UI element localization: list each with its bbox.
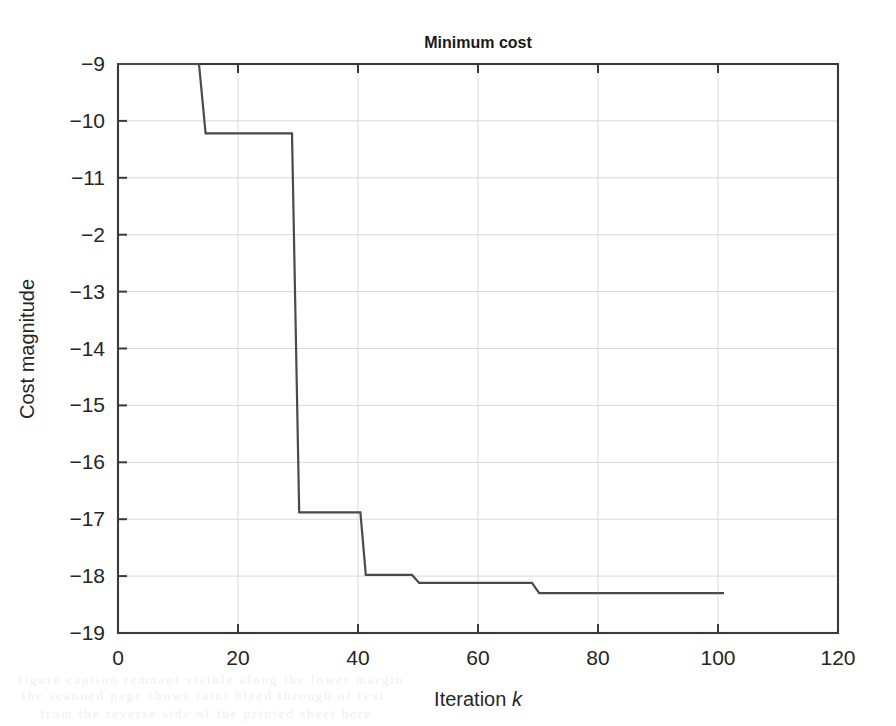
y-tick-label: −11 bbox=[71, 166, 105, 189]
y-tick-labels: −9−10−11−2−13−14−15−16−17−18−19 bbox=[69, 52, 105, 644]
x-tick-labels: 020406080100120 bbox=[112, 646, 855, 669]
chart-figure: −9−10−11−2−13−14−15−16−17−18−19 02040608… bbox=[0, 0, 896, 726]
y-tick-label: −16 bbox=[69, 450, 105, 473]
y-tick-label: −13 bbox=[69, 280, 105, 303]
x-tick-label: 40 bbox=[346, 646, 369, 669]
x-tick-label: 20 bbox=[226, 646, 249, 669]
chart-title: Minimum cost bbox=[424, 34, 532, 51]
y-tick-label: −9 bbox=[81, 52, 105, 75]
y-tick-label: −14 bbox=[69, 337, 105, 360]
y-tick-label: −2 bbox=[81, 223, 105, 246]
scan-bleed-artifact-1: the scanned page shows faint bleed throu… bbox=[22, 688, 896, 704]
cost-curve bbox=[118, 64, 724, 593]
scan-bleed-artifact-2: from the reverse side of the printed she… bbox=[40, 706, 896, 722]
y-tick-label: −15 bbox=[69, 393, 105, 416]
x-tick-label: 60 bbox=[466, 646, 489, 669]
scan-bleed-artifact-3: figure caption remnant visible along the… bbox=[18, 672, 896, 688]
x-tick-label: 100 bbox=[700, 646, 735, 669]
y-tick-label: −19 bbox=[69, 621, 105, 644]
y-axis-label: Cost magnitude bbox=[16, 279, 38, 419]
x-tick-label: 0 bbox=[112, 646, 124, 669]
y-tick-label: −17 bbox=[69, 507, 105, 530]
x-tick-label: 120 bbox=[820, 646, 855, 669]
y-tick-label: −18 bbox=[69, 564, 105, 587]
gridlines bbox=[118, 64, 838, 633]
y-tick-label: −10 bbox=[69, 109, 105, 132]
x-tick-label: 80 bbox=[586, 646, 609, 669]
minimum-cost-plot: −9−10−11−2−13−14−15−16−17−18−19 02040608… bbox=[0, 0, 896, 726]
